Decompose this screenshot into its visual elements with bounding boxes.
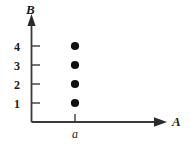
y-tick-label-2: 2 (14, 78, 20, 92)
right-arrow-icon (154, 117, 167, 126)
scatter-plot-svg: B A 4 3 2 1 a (0, 0, 190, 145)
figure-container: B A 4 3 2 1 a (0, 0, 190, 145)
x-axis-label: A (171, 114, 181, 129)
x-tick-label-a: a (72, 127, 78, 141)
y-tick-label-1: 1 (14, 97, 20, 111)
y-axis-label: B (25, 2, 35, 17)
data-point (71, 61, 79, 69)
y-tick-label-4: 4 (14, 40, 20, 54)
data-point (71, 99, 79, 107)
data-point (71, 42, 79, 50)
y-tick-label-3: 3 (14, 59, 20, 73)
data-point (71, 80, 79, 88)
